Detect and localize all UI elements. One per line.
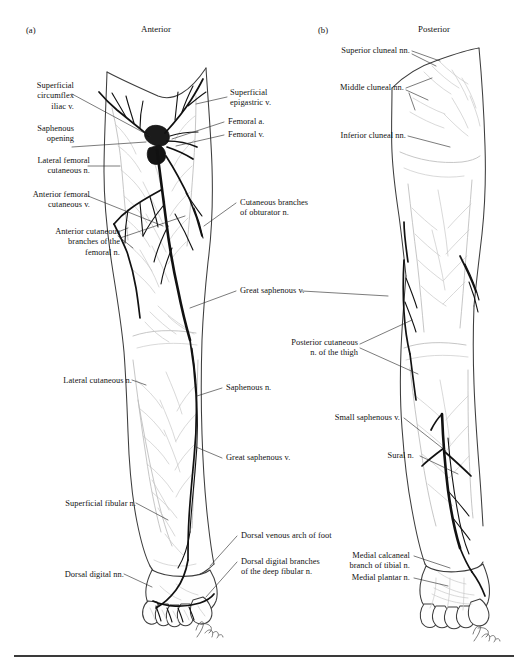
label-lateral-femoral-cutaneous-n: Lateral femoral cutaneous n. [4, 156, 90, 177]
label-superior-cluneal-nn: Superior cluneal nn. [300, 46, 410, 56]
artist-signature-anterior [196, 622, 223, 638]
label-anterior-cutaneous-branches-femoral-n: Anterior cutaneous branches of the femor… [4, 227, 120, 258]
label-small-saphenous-v: Small saphenous v. [290, 413, 400, 423]
label-middle-cluneal-nn: Middle cluneal nn. [300, 83, 404, 93]
label-saphenous-opening: Saphenous opening [4, 124, 74, 145]
panel-title-posterior: Posterior [388, 24, 480, 34]
panel-tag-b: (b) [318, 25, 328, 35]
figure-caption [14, 662, 514, 671]
figure-root: .out { fill:none; stroke:#3d3d3d; stroke… [0, 0, 528, 671]
anterior-limb-figure [99, 68, 223, 638]
label-great-saphenous-v-leg: Great saphenous v. [226, 453, 334, 463]
label-superficial-epigastric-v: Superficial epigastric v. [230, 88, 310, 109]
panel-tag-a: (a) [26, 25, 36, 35]
label-anterior-femoral-cutaneous-v: Anterior femoral cutaneous v. [4, 190, 90, 211]
label-great-saphenous-v-thigh: Great saphenous v. [240, 286, 348, 296]
label-inferior-cluneal-nn: Inferior cluneal nn. [300, 131, 406, 141]
label-dorsal-digital-nn: Dorsal digital nn. [4, 570, 124, 580]
label-femoral-a: Femoral a. [228, 117, 308, 127]
label-saphenous-n: Saphenous n. [226, 383, 316, 393]
artist-signature-posterior [473, 626, 500, 642]
label-sural-n: Sural n. [330, 451, 414, 461]
leader-lines-anterior-right [172, 97, 237, 597]
label-medial-plantar-n: Medial plantar n. [300, 573, 410, 583]
label-femoral-v: Femoral v. [228, 130, 308, 140]
label-dorsal-venous-arch-of-foot: Dorsal venous arch of foot [241, 531, 381, 541]
label-lateral-cutaneous-n: Lateral cutaneous n. [4, 376, 132, 386]
panel-title-anterior: Anterior [110, 24, 202, 34]
caption-rule [14, 655, 514, 657]
label-posterior-cutaneous-n-of-thigh: Posterior cutaneous n. of the thigh [252, 338, 358, 359]
label-superficial-fibular-n: Superficial fibular n. [4, 499, 136, 509]
label-cutaneous-branches-obturator-n: Cutaneous branches of obturator n. [240, 198, 340, 219]
label-medial-calcaneal-branch-of-tibial-n: Medial calcaneal branch of tibial n. [300, 551, 410, 572]
label-superficial-circumflex-iliac-v: Superficial circumflex iliac v. [4, 81, 74, 112]
